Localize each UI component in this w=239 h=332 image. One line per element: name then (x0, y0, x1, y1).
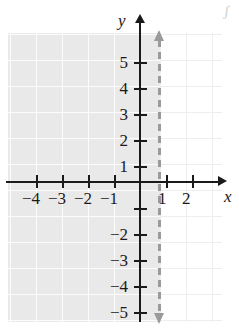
y-tick-label: 2 (104, 132, 128, 149)
y-tick-label: 4 (104, 80, 128, 97)
y-tick-mark (134, 286, 147, 288)
boundary-line-dashed (158, 40, 161, 315)
y-tick-label: 5 (104, 54, 128, 71)
y-tick-mark (134, 88, 147, 90)
x-tick-label: −2 (74, 190, 92, 207)
y-tick-mark (134, 166, 147, 168)
x-tick-label: −1 (100, 190, 118, 207)
y-axis-arrow-icon (135, 14, 145, 23)
x-tick-mark (192, 175, 194, 188)
y-tick-mark (134, 140, 147, 142)
y-tick-mark (134, 114, 147, 116)
shaded-solution-region (8, 33, 160, 322)
y-tick-mark (134, 62, 147, 64)
grid-unshaded-region (160, 33, 222, 322)
y-tick-label: −4 (98, 278, 128, 295)
boundary-arrow-up-icon (154, 30, 164, 41)
x-tick-label: −4 (22, 190, 40, 207)
y-tick-label: −3 (98, 252, 128, 269)
y-tick-label: 3 (104, 106, 128, 123)
x-tick-mark (166, 175, 168, 188)
x-axis-label: x (224, 188, 232, 205)
y-tick-mark (134, 260, 147, 262)
scan-artifact-mark: ʃ (223, 3, 230, 21)
x-axis-line (6, 181, 220, 183)
x-tick-mark (62, 175, 64, 188)
x-tick-mark (36, 175, 38, 188)
y-axis-label: y (118, 12, 126, 29)
graph-figure: y x −4 −3 −2 −1 1 2 5 4 3 2 1 −2 −3 −4 −… (0, 0, 239, 332)
y-tick-mark (134, 234, 147, 236)
x-tick-label: 2 (182, 190, 191, 207)
x-axis-arrow-icon (218, 176, 227, 186)
y-tick-label: −5 (98, 304, 128, 321)
x-tick-label: −3 (48, 190, 66, 207)
y-tick-label: −2 (98, 226, 128, 243)
y-tick-label: 1 (104, 158, 128, 175)
x-tick-mark (114, 175, 116, 188)
y-axis-line (139, 22, 141, 322)
y-tick-mark (134, 312, 147, 314)
x-tick-mark (88, 175, 90, 188)
y-tick-mark (134, 208, 147, 210)
boundary-arrow-down-icon (154, 313, 164, 324)
